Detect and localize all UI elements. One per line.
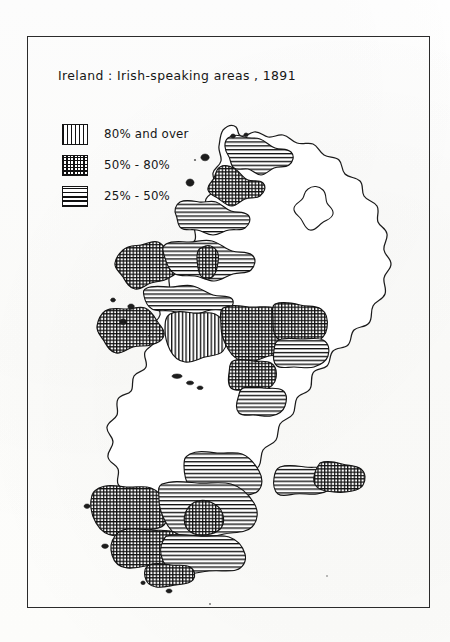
- map-canvas: [27, 36, 430, 608]
- islet-donegal-small-1: [231, 134, 236, 138]
- figure-page: Ireland : Irish-speaking areas , 1891 80…: [0, 0, 450, 642]
- islet-donegal-small-2: [244, 133, 248, 137]
- region-galway-bay-south-25-50: [273, 338, 328, 368]
- islet-mayo-small: [111, 298, 116, 302]
- region-connemara-core-80-and-over: [165, 312, 228, 363]
- region-south-cork-outlier-50-80: [145, 563, 195, 587]
- islet-aran-inishmore: [172, 374, 182, 378]
- islet-aran-inisheer: [197, 386, 203, 390]
- islet-aran-inishmaan: [186, 381, 193, 385]
- ireland-map-svg: [27, 36, 430, 608]
- islet-south-small: [141, 581, 145, 585]
- region-waterford-east-50-80: [314, 461, 365, 492]
- region-mayo-inner-hole-50-80: [197, 246, 219, 279]
- region-kerry-inner-hole-50-80: [184, 501, 223, 536]
- islet-arranmore: [186, 179, 194, 186]
- region-clare-coastal-25-50: [237, 386, 287, 416]
- islet-inishturk: [128, 304, 134, 309]
- islet-valentia: [102, 544, 109, 548]
- islet-cape-clear: [166, 589, 172, 593]
- islet-clare-island: [120, 319, 127, 325]
- islet-blaskets: [84, 504, 90, 508]
- islet-tory: [201, 154, 209, 161]
